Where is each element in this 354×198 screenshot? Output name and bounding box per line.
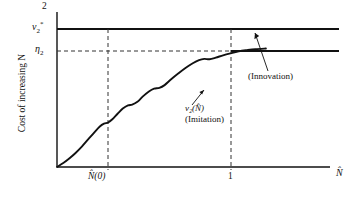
eta-subscript: 2 [40,49,44,57]
innovation-annotation: (Innovation) [248,72,293,81]
nu-subscript: 2 [36,27,40,35]
imitation-caption: (Imitation) [185,115,224,124]
chart-canvas [0,0,354,198]
y-tick-label-2: 2 [42,2,47,12]
y-axis-title: Cost of increasing N [17,27,27,159]
imitation-curve-label: ν₂(N̂) [185,104,224,113]
imitation-leader-arrow [199,90,204,94]
x-tick-label-nhat0: N̂(0) [88,172,105,182]
x-tick-label-one: 1 [228,172,233,182]
y-tick-label-eta2: η2 [35,44,43,57]
imitation-annotation: ν₂(N̂) (Imitation) [185,104,224,124]
x-axis-title: N̂ [336,168,343,178]
figure-container: Cost of increasing N 2 ν2* η2 N̂(0) 1 N̂… [0,0,354,198]
imitation-curve [57,49,266,167]
nu-star: * [40,20,44,28]
y-tick-label-nu2star: ν2* [32,21,43,35]
